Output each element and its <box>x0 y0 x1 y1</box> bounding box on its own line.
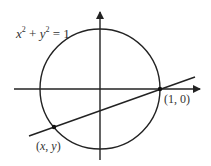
unit-circle-diagram: x2 + y2 = 1 (1, 0) (x, y) <box>0 0 211 166</box>
point-x-y <box>52 125 56 129</box>
point-x-y-label: (x, y) <box>36 139 61 153</box>
circle-equation-label: x2 + y2 = 1 <box>15 25 70 41</box>
point-1-0-label: (1, 0) <box>164 92 190 106</box>
point-1-0 <box>158 87 162 91</box>
